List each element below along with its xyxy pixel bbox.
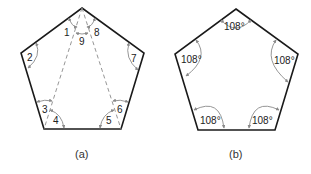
angle-label-2: 2 xyxy=(27,52,33,63)
angle-label-5: 5 xyxy=(106,115,112,126)
angle-label-bottom-right: 108° xyxy=(252,115,273,126)
figure-b: 108° 108° 108° 108° 108° (b) xyxy=(175,9,298,160)
angle-arc-3 xyxy=(37,100,52,102)
diagonal-left xyxy=(44,8,82,129)
angle-label-left: 108° xyxy=(181,54,202,65)
angle-label-4: 4 xyxy=(53,115,59,126)
angle-label-3: 3 xyxy=(42,104,48,115)
caption-a: (a) xyxy=(75,148,88,160)
angle-arc-9 xyxy=(76,33,88,34)
angle-label-7: 7 xyxy=(131,53,137,64)
diagram-canvas: 1 2 3 4 5 6 7 8 9 (a) 108° 108° 108° 108… xyxy=(0,0,311,174)
angle-label-9: 9 xyxy=(79,36,85,47)
angle-label-top: 108° xyxy=(224,21,245,32)
angle-label-bottom-left: 108° xyxy=(200,115,221,126)
angle-label-8: 8 xyxy=(94,27,100,38)
angle-label-right: 108° xyxy=(274,55,295,66)
diagonal-right xyxy=(82,8,121,129)
angle-label-6: 6 xyxy=(117,104,123,115)
angle-arc-8 xyxy=(87,18,95,27)
angle-arc-6 xyxy=(113,100,128,102)
figure-a: 1 2 3 4 5 6 7 8 9 (a) xyxy=(21,8,144,160)
pentagon-a xyxy=(21,8,144,129)
caption-b: (b) xyxy=(229,148,242,160)
angle-arc-1 xyxy=(69,18,77,27)
angle-label-1: 1 xyxy=(64,27,70,38)
